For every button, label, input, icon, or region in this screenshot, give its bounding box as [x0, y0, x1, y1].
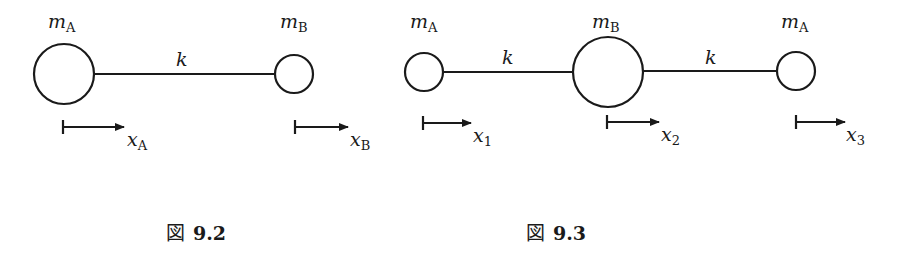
displacement-arrow-xb	[295, 120, 348, 134]
displacement-arrow-x1	[423, 116, 471, 130]
figure-caption-9-3: 図9.3	[526, 218, 586, 245]
figure-caption-prefix: 図	[166, 222, 185, 244]
mass-b-label: mB	[280, 10, 308, 35]
mass-b-center-circle	[573, 37, 643, 107]
figure-caption-number: 9.3	[553, 222, 586, 244]
figure-caption-9-2: 図9.2	[166, 218, 226, 245]
displacement-x2-label: x2	[661, 123, 680, 148]
displacement-arrow-xa	[63, 120, 124, 134]
figure-9-3: mA mB mA k k x1 x2 x3	[405, 10, 865, 149]
displacement-x3-label: x3	[846, 123, 865, 148]
mass-a-label: mA	[48, 10, 76, 35]
figure-caption-prefix: 図	[526, 222, 545, 244]
mass-a-circle	[34, 44, 94, 104]
mass-a-right-circle	[777, 52, 815, 90]
mass-b-circle	[275, 55, 313, 93]
displacement-arrow-x2	[607, 115, 659, 129]
figure-canvas: mA mB k xA xB mA mB mA k k x1	[0, 0, 899, 259]
displacement-xb-label: xB	[350, 128, 370, 153]
figure-caption-number: 9.2	[193, 222, 226, 244]
spring-k-left-label: k	[502, 46, 514, 68]
spring-k-right-label: k	[705, 46, 717, 68]
displacement-x1-label: x1	[473, 124, 492, 149]
displacement-xa-label: xA	[127, 128, 148, 153]
spring-k-label: k	[176, 48, 188, 70]
mass-a-right-label: mA	[781, 10, 809, 35]
displacement-arrow-x3	[796, 115, 845, 129]
mass-a-left-circle	[405, 53, 443, 91]
mass-b-center-label: mB	[592, 10, 620, 35]
mass-a-left-label: mA	[410, 10, 438, 35]
figure-9-2: mA mB k xA xB	[34, 10, 370, 153]
